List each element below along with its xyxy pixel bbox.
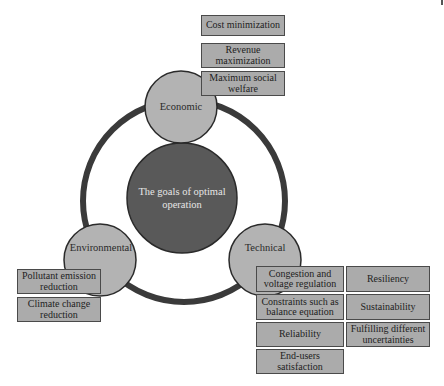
environmental-item-text: Climate change reduction (20, 299, 98, 320)
technical-item-box: Fulfilling different uncertainties (346, 322, 430, 347)
economic-item-box: Revenue maximization (201, 43, 285, 68)
technical-item-text: Resiliency (367, 274, 409, 285)
economic-item-box: Maximum social welfare (201, 71, 285, 96)
technical-item-text: Sustainability (361, 302, 416, 313)
technical-item-text: End-users satisfaction (259, 351, 341, 372)
economic-item-text: Maximum social welfare (204, 73, 282, 94)
technical-item-box: Reliability (256, 322, 344, 347)
center-label: The goals of optimal operation (134, 180, 230, 216)
technical-item-box: Resiliency (346, 266, 430, 292)
technical-item-text: Constraints such as balance equation (259, 297, 341, 318)
environmental-item-box: Climate change reduction (17, 297, 101, 322)
technical-item-box: Constraints such as balance equation (256, 294, 344, 320)
economic-item-text: Revenue maximization (204, 45, 282, 66)
technical-item-box: Congestion and voltage regulation (256, 266, 344, 292)
optimal-operation-goals-diagram: The goals of optimal operation Economic … (0, 0, 444, 386)
scan-edge-mark (441, 0, 443, 5)
environmental-item-box: Pollutant emission reduction (17, 269, 101, 294)
economic-item-text: Cost minimization (206, 20, 280, 31)
technical-item-text: Fulfilling different uncertainties (349, 324, 427, 345)
technical-item-text: Congestion and voltage regulation (259, 269, 341, 290)
center-label-text: The goals of optimal operation (134, 185, 230, 211)
economic-item-box: Cost minimization (201, 15, 285, 36)
environmental-item-text: Pollutant emission reduction (20, 271, 98, 292)
technical-item-text: Reliability (279, 329, 321, 340)
technical-item-box: Sustainability (346, 294, 430, 320)
technical-item-box: End-users satisfaction (256, 349, 344, 374)
